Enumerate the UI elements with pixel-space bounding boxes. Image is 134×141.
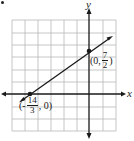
- point-label-open: (0,: [90, 56, 101, 66]
- fraction: 7 2: [102, 51, 109, 70]
- point-label-sign: -: [22, 101, 25, 111]
- fraction-denominator: 2: [103, 61, 108, 70]
- x-axis-label: x: [127, 88, 132, 99]
- fraction-denominator: 3: [30, 106, 35, 115]
- point-label-close: ): [109, 56, 112, 66]
- coordinate-plane: [0, 0, 134, 141]
- y-axis-label: y: [86, 0, 91, 10]
- point-label-rest: , 0): [39, 101, 52, 111]
- point-label-y-intercept: (0, 7 2 ): [90, 51, 113, 70]
- point-label-x-intercept: ( - 14 3 , 0): [19, 96, 52, 115]
- fraction: 14 3: [27, 96, 38, 115]
